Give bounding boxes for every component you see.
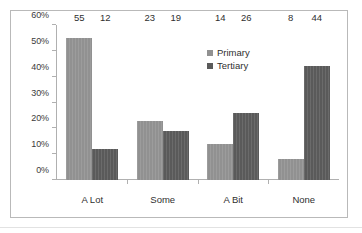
y-axis-label: 40% xyxy=(31,62,49,72)
y-axis-label: 0% xyxy=(36,165,49,175)
y-axis-label: 20% xyxy=(31,113,49,123)
y-axis-label: 10% xyxy=(31,139,49,149)
x-axis-separator xyxy=(127,180,128,184)
bar-tertiary[interactable]: 44 xyxy=(304,66,330,180)
bar-value-label: 14 xyxy=(215,12,226,23)
legend-item-primary[interactable]: Primary xyxy=(207,47,250,58)
chart-legend: PrimaryTertiary xyxy=(207,47,250,71)
y-axis-tick xyxy=(52,50,56,51)
bar-value-label: 12 xyxy=(100,12,111,23)
y-axis-tick xyxy=(52,127,56,128)
page-edge-divider xyxy=(0,227,362,228)
bar-slot: 55 xyxy=(66,25,92,180)
bar-slot: 19 xyxy=(163,25,189,180)
x-axis-separator xyxy=(198,180,199,184)
bar-value-label: 26 xyxy=(241,12,252,23)
chart-frame: 0%10%20%30%40%50%60% 551223191426844 A L… xyxy=(10,10,348,218)
y-axis-tick xyxy=(52,102,56,103)
bar-tertiary[interactable]: 12 xyxy=(92,149,118,180)
bar-slot: 44 xyxy=(304,25,330,180)
y-axis-tick xyxy=(52,24,56,25)
y-axis-label: 30% xyxy=(31,88,49,98)
bar-tertiary[interactable]: 19 xyxy=(163,131,189,180)
legend-label: Tertiary xyxy=(217,60,248,71)
bar-group-bars: 5512 xyxy=(57,25,128,180)
bar-slot: 8 xyxy=(278,25,304,180)
legend-swatch-icon xyxy=(207,63,213,69)
y-axis-tick xyxy=(52,179,56,180)
bar-group: 844 xyxy=(269,25,340,180)
category-label: Some xyxy=(128,194,199,205)
category-label: A Lot xyxy=(57,194,128,205)
y-axis-label: 60% xyxy=(31,10,49,20)
bar-slot: 23 xyxy=(137,25,163,180)
bar-value-label: 55 xyxy=(74,12,85,23)
category-label: None xyxy=(269,194,340,205)
bar-primary[interactable]: 14 xyxy=(207,144,233,180)
bar-group-bars: 844 xyxy=(269,25,340,180)
y-axis-tick xyxy=(52,76,56,77)
bar-slot: 12 xyxy=(92,25,118,180)
bar-tertiary[interactable]: 26 xyxy=(233,113,259,180)
y-axis-tick xyxy=(52,153,56,154)
bar-value-label: 44 xyxy=(311,12,322,23)
bar-value-label: 23 xyxy=(144,12,155,23)
bar-groups: 551223191426844 xyxy=(57,25,339,180)
bar-primary[interactable]: 8 xyxy=(278,159,304,180)
bar-value-label: 19 xyxy=(170,12,181,23)
x-axis-separator xyxy=(268,180,269,184)
category-axis-labels: A LotSomeA BitNone xyxy=(57,194,339,205)
category-label: A Bit xyxy=(198,194,269,205)
legend-swatch-icon xyxy=(207,50,213,56)
y-axis-label: 50% xyxy=(31,36,49,46)
bar-primary[interactable]: 23 xyxy=(137,121,163,180)
bar-primary[interactable]: 55 xyxy=(66,38,92,180)
bar-group: 5512 xyxy=(57,25,128,180)
bar-value-label: 8 xyxy=(288,12,293,23)
plot-area: 0%10%20%30%40%50%60% 551223191426844 xyxy=(56,25,339,180)
legend-item-tertiary[interactable]: Tertiary xyxy=(207,60,250,71)
bar-group-bars: 2319 xyxy=(128,25,199,180)
bar-group: 2319 xyxy=(128,25,199,180)
legend-label: Primary xyxy=(217,47,250,58)
